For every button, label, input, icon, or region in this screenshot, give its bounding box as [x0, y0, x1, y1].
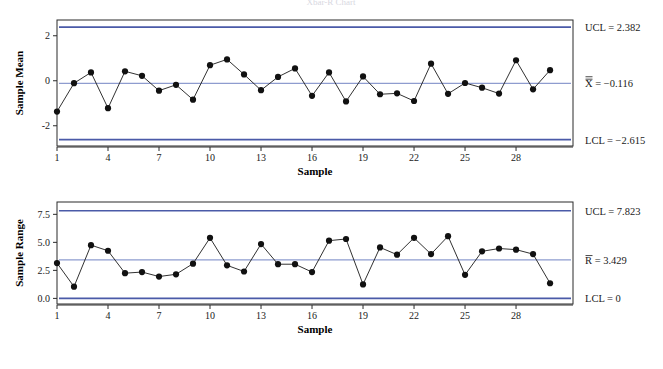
data-point [241, 268, 247, 274]
data-point [207, 62, 213, 68]
data-point [428, 251, 434, 257]
data-point [258, 241, 264, 247]
x-tick-label: 22 [409, 152, 419, 163]
data-point [88, 69, 94, 75]
data-point [139, 73, 145, 79]
y-tick-label: 0.0 [38, 293, 51, 304]
y-tick-label: 2 [45, 30, 50, 41]
data-point [309, 93, 315, 99]
x-tick-label: 16 [307, 310, 317, 321]
y-tick-label: 7.5 [38, 209, 51, 220]
data-point [547, 280, 553, 286]
y-tick-label: 2.5 [38, 265, 51, 276]
xbar-r-chart-svg: Xbar-R Chart20-2Sample Mean1471013161922… [0, 0, 663, 369]
x-tick-label: 19 [358, 310, 368, 321]
data-point [105, 248, 111, 254]
data-point [530, 251, 536, 257]
data-point [377, 91, 383, 97]
data-point [224, 56, 230, 62]
data-point [445, 91, 451, 97]
x-tick-label: 28 [511, 152, 521, 163]
x-tick-label: 1 [55, 152, 60, 163]
data-point [513, 57, 519, 63]
data-point [411, 235, 417, 241]
data-point [71, 80, 77, 86]
data-point [173, 82, 179, 88]
data-point [462, 272, 468, 278]
data-point [309, 269, 315, 275]
center-label: X = −0.116 [585, 78, 633, 89]
data-point [54, 108, 60, 114]
figure-title: Xbar-R Chart [306, 0, 356, 7]
y-axis-title: Sample Range [13, 219, 25, 287]
x-tick-label: 19 [358, 152, 368, 163]
data-point [360, 73, 366, 79]
data-point [190, 97, 196, 103]
data-point [173, 271, 179, 277]
x-tick-label: 10 [205, 310, 215, 321]
data-point [54, 260, 60, 266]
x-tick-label: 10 [205, 152, 215, 163]
x-axis-title: Sample [298, 165, 333, 177]
data-point [207, 235, 213, 241]
data-point [326, 238, 332, 244]
data-point [496, 245, 502, 251]
data-point [479, 248, 485, 254]
data-point [445, 233, 451, 239]
data-point [377, 244, 383, 250]
x-tick-label: 1 [55, 310, 60, 321]
data-point [394, 90, 400, 96]
y-tick-label: 0 [45, 75, 50, 86]
x-tick-label: 28 [511, 310, 521, 321]
control-chart-figure: Xbar-R Chart20-2Sample Mean1471013161922… [0, 0, 663, 369]
data-point [530, 86, 536, 92]
data-point [343, 98, 349, 104]
data-point [122, 68, 128, 74]
lcl-label: LCL = −2.615 [585, 135, 645, 146]
ucl-label: UCL = 2.382 [585, 22, 640, 33]
data-point [292, 65, 298, 71]
x-tick-label: 22 [409, 310, 419, 321]
data-point [88, 242, 94, 248]
data-point [224, 262, 230, 268]
data-point [275, 74, 281, 80]
data-point [496, 90, 502, 96]
data-point [156, 273, 162, 279]
data-point [258, 87, 264, 93]
data-point [241, 71, 247, 77]
data-point [513, 247, 519, 253]
x-tick-label: 4 [106, 310, 111, 321]
y-tick-label: -2 [42, 120, 50, 131]
y-tick-label: 5.0 [38, 237, 51, 248]
x-tick-label: 13 [256, 152, 266, 163]
data-point [343, 236, 349, 242]
data-point [190, 261, 196, 267]
data-point [71, 284, 77, 290]
lcl-label: LCL = 0 [585, 293, 621, 304]
data-point [275, 261, 281, 267]
x-tick-label: 16 [307, 152, 317, 163]
center-label: R = 3.429 [585, 255, 627, 266]
x-tick-label: 25 [460, 152, 470, 163]
ucl-label: UCL = 7.823 [585, 206, 640, 217]
data-point [326, 69, 332, 75]
data-point [105, 105, 111, 111]
x-tick-label: 7 [157, 310, 162, 321]
data-point [292, 261, 298, 267]
x-tick-label: 25 [460, 310, 470, 321]
data-point [547, 67, 553, 73]
data-point [462, 80, 468, 86]
x-tick-label: 7 [157, 152, 162, 163]
data-point [394, 252, 400, 258]
x-tick-label: 4 [106, 152, 111, 163]
chart-panel-range: 7.55.02.50.0Sample Range1471013161922252… [13, 202, 640, 335]
data-point [479, 85, 485, 91]
data-point [139, 269, 145, 275]
chart-panel-xbar: 20-2Sample Mean14710131619222528SampleUC… [13, 20, 645, 177]
data-point [156, 88, 162, 94]
data-point [122, 270, 128, 276]
plot-background [57, 202, 573, 304]
y-axis-title: Sample Mean [13, 51, 25, 115]
data-point [360, 281, 366, 287]
data-point [428, 61, 434, 67]
